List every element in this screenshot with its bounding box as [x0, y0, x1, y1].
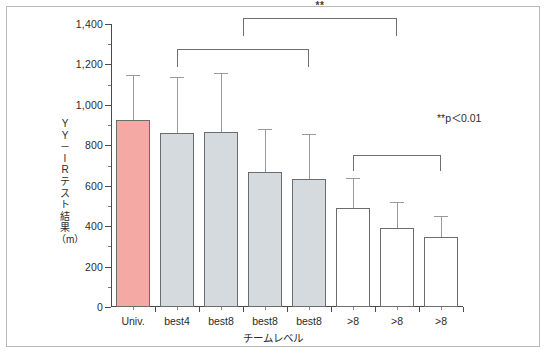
y-tick-minor	[108, 85, 112, 86]
y-tick-label-1200: 1,200	[76, 58, 103, 70]
figure-canvas: Y Y － I R テ ス ト 結 果 （m） **p＜0.01 0200400…	[0, 0, 546, 353]
significance-bracket-left-top-line	[177, 49, 309, 50]
y-axis-title-char-6: ス	[56, 188, 74, 200]
x-category-label-5: best8	[296, 315, 322, 327]
x-category-label-1: Univ.	[121, 315, 144, 327]
significance-bracket-top	[243, 18, 397, 36]
bar-6	[336, 208, 370, 307]
y-tick-label-600: 600	[85, 180, 103, 192]
y-axis-title-char-1: Y	[56, 130, 74, 142]
error-bar-6	[353, 178, 354, 209]
bar-7	[380, 228, 414, 307]
y-tick-600	[105, 186, 111, 187]
x-tick-4	[287, 307, 288, 312]
x-tick-5	[331, 307, 332, 312]
y-tick-label-200: 200	[85, 261, 103, 273]
x-axis-title: チームレベル	[0, 330, 546, 345]
plot-area: 02004006008001,0001,2001,400 Univ.best4b…	[111, 24, 463, 307]
bar-5	[292, 179, 326, 307]
y-tick-minor	[108, 44, 112, 45]
y-axis-title-char-8: 結	[56, 211, 74, 223]
x-tick-minor-7	[397, 307, 398, 310]
y-axis-title-char-7: ト	[56, 199, 74, 211]
significance-bracket-top-top-line	[243, 18, 397, 19]
error-bar-cap-5	[302, 134, 316, 135]
x-category-label-8: >8	[435, 315, 447, 327]
bar-1	[116, 120, 150, 307]
y-tick-label-1000: 1,000	[76, 99, 103, 111]
significance-star-top: **	[316, 0, 325, 11]
x-tick-minor-8	[441, 307, 442, 310]
significance-bracket-left	[177, 49, 309, 67]
x-tick-3	[243, 307, 244, 312]
y-axis-line	[111, 24, 112, 307]
bar-8	[424, 237, 458, 307]
bar-4	[248, 172, 282, 307]
significance-bracket-right-right-leg	[440, 155, 441, 171]
y-tick-label-400: 400	[85, 220, 103, 232]
y-tick-800	[105, 145, 111, 146]
y-axis-title: Y Y － I R テ ス ト 結 果 （m）	[56, 118, 74, 246]
x-tick-minor-1	[133, 307, 134, 310]
y-tick-label-1400: 1,400	[76, 18, 103, 30]
x-category-label-4: best8	[252, 315, 278, 327]
error-bar-cap-6	[346, 178, 360, 179]
bar-2	[160, 133, 194, 307]
x-category-label-2: best4	[164, 315, 190, 327]
significance-bracket-top-left-leg	[243, 18, 244, 36]
y-axis-title-char-9: 果	[56, 222, 74, 234]
significance-bracket-right-top-line	[353, 155, 441, 156]
x-category-label-3: best8	[208, 315, 234, 327]
y-tick-200	[105, 267, 111, 268]
x-tick-minor-5	[309, 307, 310, 310]
error-bar-2	[177, 77, 178, 133]
y-axis-title-char-4: R	[56, 164, 74, 176]
y-tick-400	[105, 226, 111, 227]
error-bar-3	[221, 73, 222, 132]
error-bar-5	[309, 134, 310, 178]
error-bar-cap-3	[214, 73, 228, 74]
y-tick-1000	[105, 105, 111, 106]
x-category-label-7: >8	[391, 315, 403, 327]
x-tick-minor-3	[221, 307, 222, 310]
x-tick-minor-6	[353, 307, 354, 310]
x-tick-minor-2	[177, 307, 178, 310]
x-tick-1	[155, 307, 156, 312]
y-axis-unit: （m）	[56, 234, 74, 246]
error-bar-4	[265, 129, 266, 171]
error-bar-7	[397, 202, 398, 228]
significance-bracket-left-left-leg	[177, 49, 178, 67]
error-bar-cap-2	[170, 77, 184, 78]
x-tick-2	[199, 307, 200, 312]
y-tick-minor	[108, 287, 112, 288]
y-tick-label-800: 800	[85, 139, 103, 151]
significance-bracket-right-left-leg	[353, 155, 354, 171]
x-tick-7	[419, 307, 420, 312]
x-category-label-6: >8	[347, 315, 359, 327]
y-axis-title-char-2: －	[56, 141, 74, 153]
error-bar-cap-8	[434, 216, 448, 217]
y-tick-minor	[108, 206, 112, 207]
x-tick-6	[375, 307, 376, 312]
y-axis-title-char-5: テ	[56, 176, 74, 188]
y-tick-minor	[108, 246, 112, 247]
y-tick-label-0: 0	[97, 301, 103, 313]
x-tick-minor-4	[265, 307, 266, 310]
significance-bracket-top-right-leg	[396, 18, 397, 36]
error-bar-cap-7	[390, 202, 404, 203]
y-tick-1400	[105, 24, 111, 25]
x-tick-8	[463, 307, 464, 312]
y-tick-1200	[105, 64, 111, 65]
bar-3	[204, 132, 238, 307]
significance-bracket-left-right-leg	[308, 49, 309, 67]
error-bar-1	[133, 75, 134, 120]
y-tick-0	[105, 307, 111, 308]
error-bar-cap-1	[126, 75, 140, 76]
y-tick-minor	[108, 166, 112, 167]
y-axis-title-char-0: Y	[56, 118, 74, 130]
y-axis-title-char-3: I	[56, 153, 74, 165]
error-bar-8	[441, 216, 442, 237]
error-bar-cap-4	[258, 129, 272, 130]
significance-bracket-right	[353, 155, 441, 171]
y-tick-minor	[108, 125, 112, 126]
